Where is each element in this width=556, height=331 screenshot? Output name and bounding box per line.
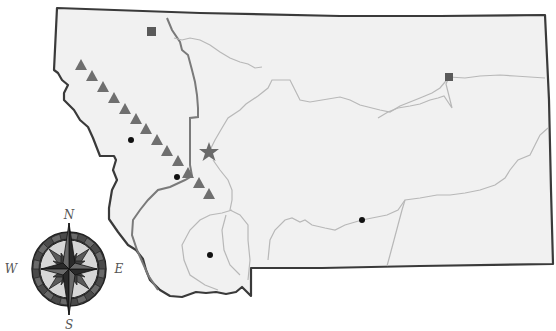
- square-marker: [147, 27, 156, 36]
- montana-map: N E S W: [0, 0, 556, 331]
- square-marker: [445, 73, 453, 81]
- dot-marker: [128, 137, 134, 143]
- dot-marker: [359, 217, 365, 223]
- state-outline: [54, 8, 553, 297]
- dot-marker: [207, 252, 213, 258]
- compass-east-label: E: [114, 262, 124, 276]
- dot-marker: [174, 174, 180, 180]
- compass-north-label: N: [63, 208, 75, 222]
- compass-south-label: S: [65, 318, 73, 331]
- compass-rose: N E S W: [5, 208, 124, 331]
- compass-west-label: W: [5, 262, 19, 276]
